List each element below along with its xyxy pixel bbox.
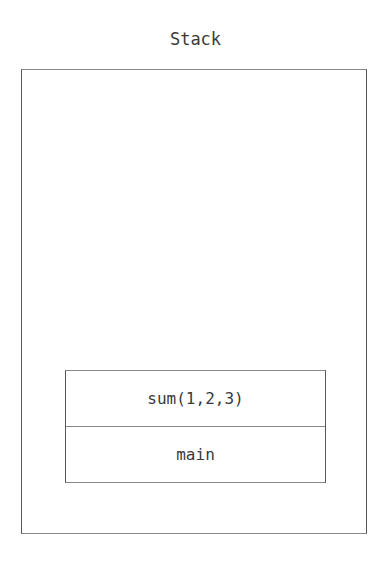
stack-frame-main: main [66,426,325,482]
stack-frames: sum(1,2,3) main [65,370,326,483]
stack-frame-sum: sum(1,2,3) [66,371,325,426]
stack-title: Stack [0,29,391,49]
